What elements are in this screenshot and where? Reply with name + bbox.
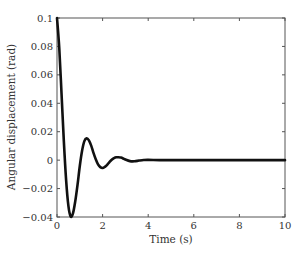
y-axis-label: Angular displacement (rad) [5, 44, 17, 191]
x-tick-label: 6 [191, 220, 197, 231]
y-tick-label: −0.02 [22, 183, 53, 194]
plot-border [57, 18, 285, 217]
x-tick-label: 4 [145, 220, 151, 231]
y-tick-label: 0.08 [31, 41, 53, 52]
x-tick-label: 0 [54, 220, 60, 231]
y-tick-label: 0 [47, 155, 53, 166]
y-tick-label: −0.04 [22, 212, 53, 223]
series-line [57, 18, 285, 217]
data-series [57, 18, 285, 217]
x-axis-label: Time (s) [149, 233, 192, 245]
y-tick-label: 0.1 [37, 13, 53, 24]
y-tick-label: 0.02 [31, 126, 53, 137]
plot-frame [57, 18, 285, 217]
x-tick-label: 10 [279, 220, 292, 231]
y-tick-label: 0.06 [31, 69, 53, 80]
y-tick-label: 0.04 [31, 98, 53, 109]
x-tick-label: 2 [99, 220, 105, 231]
line-chart: 0246810−0.04−0.0200.020.040.060.080.1 Ti… [0, 0, 302, 254]
x-tick-label: 8 [236, 220, 242, 231]
